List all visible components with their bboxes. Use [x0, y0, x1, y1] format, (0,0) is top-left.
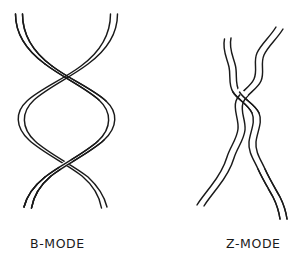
z-mode-crossover-lower — [256, 169, 287, 219]
z-mode-crossover-upper — [233, 89, 259, 113]
b-mode-caption: B-MODE — [30, 236, 85, 251]
z-mode-caption: Z-MODE — [226, 236, 281, 251]
b-mode-helix — [16, 14, 118, 208]
dna-conformation-figure: B-MODE Z-MODE — [0, 0, 295, 262]
b-mode-crossover-top — [16, 14, 107, 101]
b-mode-strand-b — [18, 14, 117, 208]
b-mode-crossover-bottom — [24, 176, 67, 208]
helix-drawing — [0, 0, 295, 262]
z-mode-helix — [197, 27, 287, 219]
